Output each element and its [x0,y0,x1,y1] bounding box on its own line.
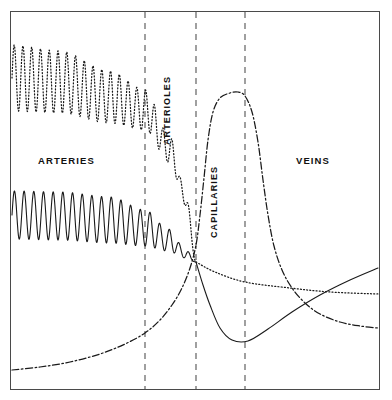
curve-blood-pressure-lower-tail [196,262,378,342]
zone-label-arteries: ARTERIES [38,155,95,166]
curve-blood-pressure-upper-tail [196,262,378,294]
zone-label-arterioles: ARTERIOLES [162,76,172,145]
chart-plot-area [0,0,392,400]
zone-label-capillaries: CAPILLARIES [209,166,219,238]
physiology-chart-figure: ARTERIESARTERIOLESCAPILLARIESVEINS [0,0,392,400]
zone-label-veins: VEINS [296,155,330,166]
zone-divider-lines [145,12,245,389]
chart-curves [12,45,378,370]
curve-cross-sectional-area [12,92,378,370]
curve-blood-pressure-lower-oscillation [12,191,196,262]
